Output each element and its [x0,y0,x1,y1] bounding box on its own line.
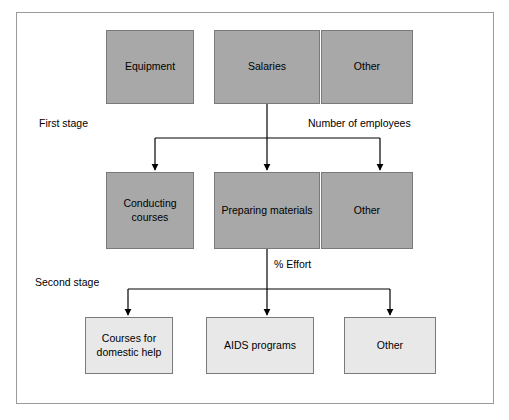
percent-effort-label: % Effort [274,258,311,270]
activity-box-preparing-materials-label: Preparing materials [221,204,312,217]
product-box-other-3[interactable]: Other [344,317,436,374]
second-stage-label: Second stage [35,276,99,288]
activity-box-preparing-materials[interactable]: Preparing materials [214,172,320,249]
cost-box-salaries[interactable]: Salaries [214,30,320,104]
activity-box-conducting-courses[interactable]: Conducting courses [106,172,194,249]
cost-box-equipment[interactable]: Equipment [106,30,194,104]
product-box-aids-programs[interactable]: AIDS programs [206,317,314,374]
cost-box-other-1-label: Other [354,60,380,73]
product-box-other-3-label: Other [377,339,403,352]
cost-box-equipment-label: Equipment [125,60,175,73]
number-of-employees-label: Number of employees [308,117,411,129]
activity-box-other-2[interactable]: Other [321,172,413,249]
activity-box-conducting-courses-label: Conducting courses [109,197,191,223]
product-box-courses-domestic-help-label: Courses for domestic help [88,332,170,358]
product-box-aids-programs-label: AIDS programs [224,339,296,352]
product-box-courses-domestic-help[interactable]: Courses for domestic help [85,317,173,374]
activity-box-other-2-label: Other [354,204,380,217]
cost-box-other-1[interactable]: Other [321,30,413,104]
cost-box-salaries-label: Salaries [248,60,286,73]
first-stage-label: First stage [39,117,88,129]
diagram-canvas: Equipment Salaries Other First stage Num… [0,0,509,420]
